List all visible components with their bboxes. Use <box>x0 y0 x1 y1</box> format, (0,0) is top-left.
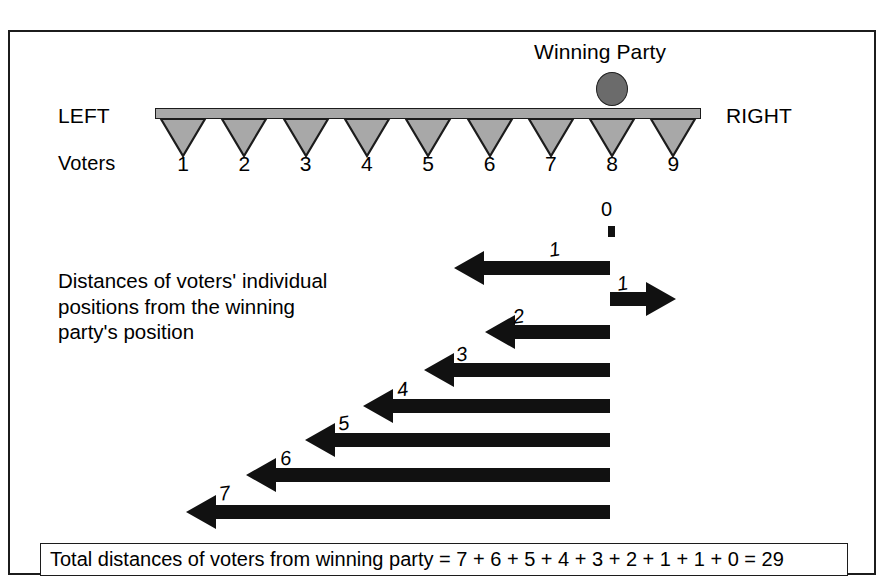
voter-number-6: 6 <box>477 152 503 176</box>
voter-number-7: 7 <box>538 152 564 176</box>
voter-number-4: 4 <box>354 152 380 176</box>
total-distance-caption-text: Total distances of voters from winning p… <box>50 548 784 571</box>
left-pole-label: LEFT <box>58 104 110 129</box>
voter-number-8: 8 <box>599 152 625 176</box>
voter-number-2: 2 <box>231 152 257 176</box>
voters-row-label: Voters <box>58 152 115 176</box>
winning-party-marker-icon <box>596 72 628 106</box>
zero-distance-label: 0 <box>601 198 612 222</box>
description-text: Distances of voters' individual position… <box>58 268 328 345</box>
voter-number-9: 9 <box>660 152 686 176</box>
zero-tick-icon <box>608 226 615 237</box>
voter-number-3: 3 <box>293 152 319 176</box>
figure-root: Winning Party LEFT RIGHT Voters 12345678… <box>0 0 891 577</box>
voter-number-1: 1 <box>170 152 196 176</box>
winning-party-label: Winning Party <box>534 40 666 65</box>
total-distance-caption-box: Total distances of voters from winning p… <box>40 543 848 576</box>
right-pole-label: RIGHT <box>726 104 792 129</box>
voter-number-5: 5 <box>415 152 441 176</box>
